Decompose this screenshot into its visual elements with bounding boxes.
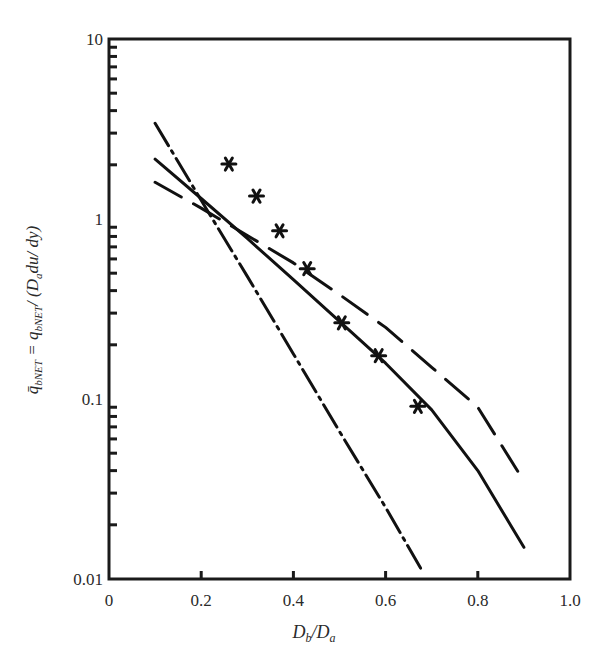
x-axis-label: Db/Da — [292, 622, 336, 645]
x-tick-label: 0.4 — [283, 591, 305, 610]
asterisk-marker — [222, 158, 236, 170]
x-tick-label: 0.2 — [191, 591, 212, 610]
x-tick-label: 0.8 — [467, 591, 488, 610]
y-axis-label: q̄bNET = qbNET/ (Dadu/ dy) — [23, 225, 44, 394]
axis-ticks — [109, 47, 478, 579]
asterisk-marker — [250, 190, 264, 202]
dash-dot-series — [155, 123, 422, 571]
x-tick-label: 0.6 — [375, 591, 396, 610]
chart: 00.20.40.60.81.00.010.1110 Db/Da q̄bNET … — [0, 0, 604, 670]
long-dash-series — [155, 182, 524, 481]
tick-labels: 00.20.40.60.81.00.010.1110 — [73, 30, 580, 610]
asterisk-marker — [273, 225, 287, 237]
y-tick-label: 1 — [95, 210, 104, 229]
y-tick-label: 0.1 — [82, 390, 103, 409]
y-tick-label: 10 — [86, 30, 103, 49]
solid-series — [155, 159, 524, 547]
x-tick-label: 1.0 — [559, 591, 580, 610]
y-tick-label: 0.01 — [73, 570, 103, 589]
series-layer — [155, 123, 524, 571]
x-tick-label: 0 — [105, 591, 114, 610]
plot-frame — [109, 39, 570, 579]
